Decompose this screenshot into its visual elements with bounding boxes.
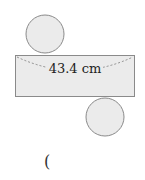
answer-blank-paren: ( [44, 152, 50, 171]
bottom-circle-base [86, 98, 124, 136]
cylinder-net-diagram: 43.4 cm ( [0, 0, 145, 180]
top-circle-base [26, 15, 64, 53]
circumference-label: 43.4 cm [49, 61, 102, 76]
